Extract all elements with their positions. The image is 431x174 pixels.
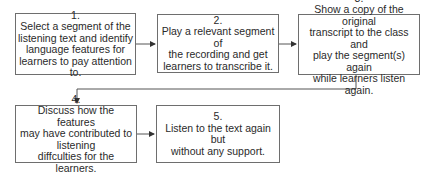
step-5-number: 5.	[214, 111, 223, 123]
step-1-text: Select a segment of the listening text a…	[18, 21, 133, 79]
step-4-box: 4. Discuss how the features may have con…	[15, 105, 137, 163]
step-2-box: 2. Play a relevant segment of the record…	[157, 14, 279, 73]
step-3-box: 3. Show a copy of the original transcrip…	[298, 14, 420, 75]
step-5-text: Listen to the text again but without any…	[159, 123, 277, 158]
step-2-text: Play a relevant segment of the recording…	[160, 26, 276, 72]
step-3-text: Show a copy of the original transcript t…	[301, 4, 417, 96]
step-5-box: 5. Listen to the text again but without …	[156, 105, 280, 163]
step-4-text: Discuss how the features may have contri…	[18, 105, 134, 174]
step-1-box: 1. Select a segment of the listening tex…	[15, 13, 136, 75]
